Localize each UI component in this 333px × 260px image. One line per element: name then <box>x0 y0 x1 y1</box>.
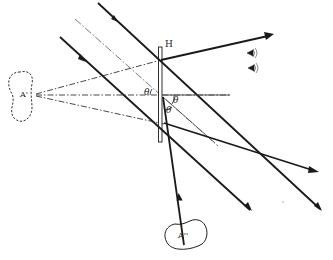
angle-arc-1 <box>150 89 152 95</box>
diffracted-ray-to-eye <box>161 36 268 60</box>
reconstruction-beam-lower <box>60 37 250 210</box>
real-image-label: A'' <box>178 232 188 240</box>
diffracted-ray-lower <box>164 123 312 170</box>
angle-theta-1: θ <box>144 88 149 97</box>
reconstruction-beam-upper <box>98 3 320 209</box>
virtual-image-label: A' <box>20 91 28 99</box>
hologram-label: H <box>165 40 173 49</box>
angle-theta-3: θ <box>166 106 171 115</box>
diffracted-ray-to-real-image <box>163 97 184 245</box>
observer-eyes <box>247 48 258 73</box>
dashed-rays-from-virtual-image <box>36 60 230 124</box>
angle-theta-2: θ <box>173 96 178 105</box>
